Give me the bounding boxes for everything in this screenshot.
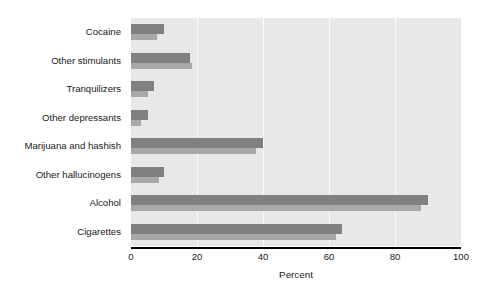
- bar-group: [131, 195, 461, 211]
- x-tick-label: 20: [192, 251, 203, 262]
- y-tick-label: Other stimulants: [6, 56, 121, 66]
- y-tick-label: Cocaine: [6, 27, 121, 37]
- bar-group: [131, 110, 461, 126]
- bar-segment: [131, 110, 148, 120]
- bar-segment: [131, 177, 159, 183]
- bar-segment: [131, 53, 190, 63]
- bar-segment: [131, 148, 256, 154]
- bar-segment: [131, 205, 421, 211]
- bar-chart: CocaineOther stimulantsTranquilizersOthe…: [0, 0, 483, 292]
- bar-segment: [131, 167, 164, 177]
- bar-group: [131, 167, 461, 183]
- bar-group: [131, 24, 461, 40]
- plot-area: [131, 18, 461, 246]
- x-tick-label: 60: [324, 251, 335, 262]
- bar-segment: [131, 81, 154, 91]
- bar-group: [131, 224, 461, 240]
- bar-segment: [131, 91, 148, 97]
- bar-group: [131, 138, 461, 154]
- bar-segment: [131, 195, 428, 205]
- bar-group: [131, 81, 461, 97]
- y-tick-label: Alcohol: [6, 198, 121, 208]
- y-tick-label: Tranquilizers: [6, 84, 121, 94]
- y-tick-label: Other hallucinogens: [6, 170, 121, 180]
- bar-segment: [131, 120, 141, 126]
- y-tick-label: Cigarettes: [6, 227, 121, 237]
- x-axis-title: Percent: [131, 269, 461, 280]
- bar-segment: [131, 63, 192, 69]
- x-tick-label: 80: [390, 251, 401, 262]
- x-tick-label: 40: [258, 251, 269, 262]
- bar-segment: [131, 24, 164, 34]
- x-tick-label: 100: [453, 251, 469, 262]
- y-axis-category-labels: CocaineOther stimulantsTranquilizersOthe…: [8, 18, 126, 246]
- bar-group: [131, 53, 461, 69]
- x-axis-line: [131, 247, 461, 249]
- x-tick-label: 0: [128, 251, 133, 262]
- bar-segment: [131, 34, 157, 40]
- y-tick-label: Other depressants: [6, 113, 121, 123]
- bar-segment: [131, 224, 342, 234]
- x-axis-tick-labels: 020406080100: [131, 251, 461, 265]
- bar-segment: [131, 138, 263, 148]
- y-tick-label: Marijuana and hashish: [6, 141, 121, 151]
- bar-segment: [131, 234, 336, 240]
